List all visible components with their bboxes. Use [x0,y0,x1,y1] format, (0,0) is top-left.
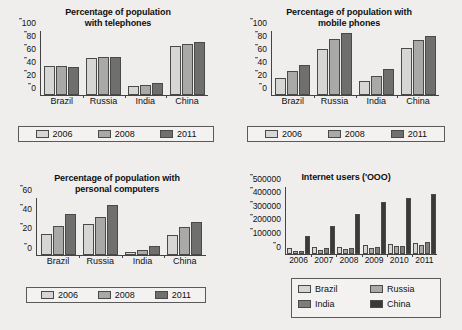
legend-swatch-icon [298,285,311,293]
legend-label: India [315,299,335,309]
plot-area-personal-computers: 60 40 20 0 [36,198,206,256]
bar-2006 [359,81,370,95]
legend-item-2006: 2006 [36,129,73,139]
bar-2006 [275,78,286,95]
bar-group-china [397,31,439,95]
bar-russia [343,249,348,254]
y-tick-label: 40 [27,57,40,66]
bar-2011 [68,67,79,95]
legend-item-russia: Russia [370,284,434,294]
bar-russia [394,246,399,254]
bar-china [431,194,436,254]
bar-2006 [86,58,97,95]
bar-2006 [128,86,139,95]
chart-title-line1: Percentage of population [18,7,218,18]
bar-2008 [53,226,64,255]
bar-2008 [137,250,148,255]
legend-swatch-icon [370,300,383,308]
x-label-brazil: Brazil [272,96,314,107]
bar-2006 [83,224,94,255]
y-tick-label: 0 [276,242,285,251]
legend-label: 2008 [115,290,135,300]
legend-item-china: China [370,299,434,309]
bar-india [349,248,354,254]
x-label-2010: 2010 [387,255,412,266]
x-label-2011: 2011 [412,255,437,266]
x-label-india: India [356,96,398,107]
legend-item-2011: 2011 [155,290,191,300]
bar-2011 [191,222,202,255]
bar-group-2010 [387,187,412,254]
legend-label: 2008 [115,129,135,139]
bar-groups [272,31,439,95]
y-tick-label: 300000 [253,201,285,210]
bar-group-india [356,31,398,95]
bar-2011 [194,42,205,95]
bar-group-2008 [336,187,361,254]
bar-group-2009 [362,187,387,254]
legend-swatch-icon [41,291,54,299]
legend-label: 2006 [53,129,73,139]
bar-group-russia [83,31,125,95]
chart-title-line2: with telephones [18,18,218,29]
bar-brazil [337,247,342,255]
bar-china [406,198,411,254]
y-tick-label: 100 [22,18,40,27]
bar-group-china [164,198,206,255]
bar-group-2006 [286,187,311,254]
x-label-brazil: Brazil [41,96,83,107]
bar-2006 [44,66,55,95]
legend-mobile-phones: 2006 2008 2011 [247,126,445,142]
chart-panel-mobile-phones: Percentage of population with mobile pho… [231,0,462,165]
bar-2008 [98,57,109,95]
y-tick-label: 40 [258,57,271,66]
bar-groups [37,198,206,255]
y-tick-label: 20 [27,70,40,79]
legend-swatch-icon [370,285,383,293]
chart-panel-personal-computers: Percentage of population with personal c… [0,165,231,330]
x-label-russia: Russia [79,256,121,267]
bar-india [375,247,380,254]
bar-china [330,226,335,254]
bar-2008 [287,71,298,95]
legend-swatch-icon [36,130,49,138]
x-label-2009: 2009 [362,255,387,266]
bar-2011 [299,65,310,95]
x-label-china: China [397,96,439,107]
bar-china [381,202,386,254]
y-tick-label: 0 [31,83,40,92]
bar-china [355,214,360,254]
legend-label: 2011 [172,290,191,300]
bar-group-2011 [412,187,437,254]
bar-2011 [425,36,436,95]
x-label-india: India [122,256,164,267]
plot-area-telephones: 100 80 60 40 20 0 [40,31,208,96]
bar-2008 [140,85,151,95]
bar-russia [369,248,374,254]
chart-panel-internet-users: Internet users ('OOO) 500000 400000 3000… [231,165,462,330]
bar-2008 [413,40,424,95]
bar-group-brazil [37,198,79,255]
legend-item-india: India [298,299,362,309]
bar-brazil [413,243,418,254]
legend-label: Brazil [315,284,338,294]
x-label-china: China [166,96,208,107]
plot-area-internet-users: 500000 400000 300000 200000 100000 0 [285,187,437,255]
y-tick-label: 40 [23,205,36,214]
bar-india [400,246,405,254]
bar-2011 [341,33,352,95]
bar-india [324,248,329,254]
bar-2008 [95,217,106,255]
bar-russia [419,245,424,254]
bar-2011 [152,83,163,95]
figure-container: Percentage of population with telephones… [0,0,462,330]
bar-2008 [179,227,190,255]
legend-internet-users: Brazil Russia India China [291,278,441,318]
y-tick-label: 80 [258,31,271,40]
bar-groups [286,187,437,254]
legend-swatch-icon [98,130,111,138]
bar-group-brazil [41,31,83,95]
y-tick-label: 80 [27,31,40,40]
bar-brazil [363,245,368,254]
bar-india [425,242,430,254]
